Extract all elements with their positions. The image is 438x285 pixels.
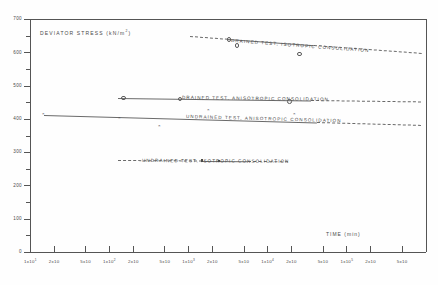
y-tick-minor-150	[26, 202, 30, 203]
data-point-marker: ×	[42, 112, 45, 116]
x-tick-2e2	[133, 246, 134, 252]
x-tick-label-1e4: 1x104	[256, 258, 280, 264]
x-tick-label-2e3: 2x10	[200, 258, 224, 264]
x-tick-2e3	[212, 246, 213, 252]
x-tick-1e4	[267, 246, 268, 252]
data-point-marker: ×	[207, 108, 210, 112]
x-tick-label-5e1: 5x10	[74, 258, 98, 264]
data-point-marker: ×	[118, 116, 121, 120]
y-tick-500	[24, 86, 30, 87]
data-point-marker	[235, 43, 240, 48]
y-tick-minor-450	[26, 102, 30, 103]
series-label-drained-isotropic: DRAINED TEST, ISOTROPIC CONSOLIDATION	[231, 38, 370, 53]
x-tick-5e5	[402, 246, 403, 252]
x-tick-label-5e4: 5x10	[311, 258, 335, 264]
y-tick-label-200: 200	[4, 183, 22, 188]
y-tick-700	[24, 19, 30, 20]
x-tick-5e4	[323, 246, 324, 252]
x-tick-label-2e5: 2x10	[359, 258, 383, 264]
y-tick-minor-350	[26, 136, 30, 137]
y-axis-title: DEVIATOR STRESS (kN/m2)	[40, 29, 131, 36]
chart-canvas: 700 600 500 400 300 200 100 0 1x101 2x10…	[0, 0, 438, 285]
x-tick-2e5	[370, 246, 371, 252]
x-tick-1e5	[346, 246, 347, 252]
y-tick-200	[24, 185, 30, 186]
data-point-marker: ×	[293, 112, 296, 116]
y-tick-minor-250	[26, 169, 30, 170]
y-tick-label-400: 400	[4, 116, 22, 121]
x-tick-5e1	[85, 246, 86, 252]
y-tick-minor-550	[26, 69, 30, 70]
series-label-drained-anisotropic: DRAINED TEST, ANISOTROPIC CONSOLIDATION	[182, 95, 329, 102]
x-axis-line	[30, 252, 426, 253]
y-axis-line	[30, 19, 31, 252]
y-tick-label-700: 700	[4, 16, 22, 21]
x-tick-label-5e2: 5x10	[153, 258, 177, 264]
x-tick-label-2e2: 2x10	[121, 258, 145, 264]
data-point-marker: ×	[158, 124, 161, 128]
x-tick-1e1	[30, 246, 31, 252]
x-tick-1e3	[188, 246, 189, 252]
plot-right-border	[426, 19, 427, 252]
y-tick-100	[24, 219, 30, 220]
plot-top-border	[30, 19, 426, 20]
data-point-marker	[297, 52, 302, 57]
y-tick-400	[24, 119, 30, 120]
y-tick-label-600: 600	[4, 50, 22, 55]
y-tick-label-100: 100	[4, 216, 22, 221]
y-tick-600	[24, 52, 30, 53]
x-tick-5e3	[244, 246, 245, 252]
data-point-marker	[121, 96, 126, 101]
y-tick-minor-650	[26, 36, 30, 37]
y-tick-label-500: 500	[4, 83, 22, 88]
series-label-undrained-isotropic: UNDRAINED TEST, ISOTROPIC CONSOLIDATION	[142, 158, 289, 164]
series-drained-isotropic-lead	[190, 36, 228, 40]
y-tick-0	[24, 252, 30, 253]
y-tick-minor-50	[26, 235, 30, 236]
x-tick-label-1e5: 1x105	[335, 258, 359, 264]
x-tick-label-1e2: 1x102	[98, 258, 122, 264]
x-tick-label-1e1: 1x101	[18, 258, 42, 264]
x-axis-title: TIME (min)	[326, 231, 361, 237]
x-tick-label-2e1: 2x10	[42, 258, 66, 264]
x-tick-label-1e3: 1x103	[177, 258, 201, 264]
x-tick-label-2e4: 2x10	[280, 258, 304, 264]
x-tick-2e1	[54, 246, 55, 252]
x-tick-label-5e3: 5x10	[232, 258, 256, 264]
y-tick-label-300: 300	[4, 149, 22, 154]
x-tick-1e2	[109, 246, 110, 252]
y-tick-300	[24, 152, 30, 153]
y-tick-label-0: 0	[4, 249, 22, 254]
x-tick-label-5e5: 5x10	[390, 258, 414, 264]
x-tick-5e2	[164, 246, 165, 252]
x-tick-2e4	[291, 246, 292, 252]
